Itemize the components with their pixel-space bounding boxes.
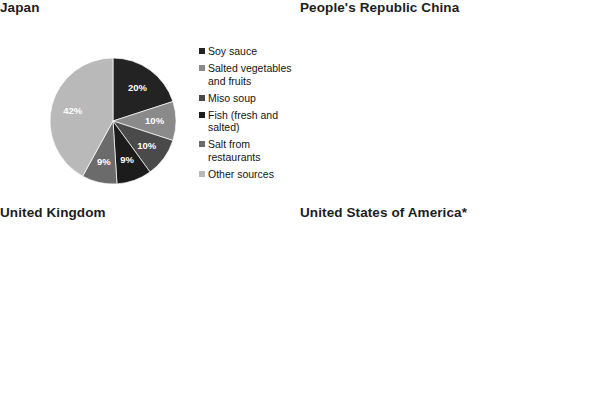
chart-panel-japan: Japan 20%10%10%9%9%42% Soy sauceSalted v… bbox=[0, 0, 300, 205]
chart-title-japan: Japan bbox=[0, 0, 300, 15]
chart-panel-usa: United States of America* 29%19%12%8%7%5… bbox=[300, 205, 601, 417]
chart-panel-china: People's Republic China 76%6%18% Salt ad… bbox=[300, 0, 601, 205]
legend-japan: Soy sauceSalted vegetables and fruitsMis… bbox=[199, 45, 297, 185]
legend-item: Fish (fresh and salted) bbox=[199, 109, 297, 134]
legend-swatch-icon bbox=[199, 112, 205, 118]
legend-label: Salted vegetables and fruits bbox=[208, 62, 291, 87]
pie-slice-label: 10% bbox=[137, 140, 157, 151]
legend-label: Miso soup bbox=[208, 92, 256, 105]
legend-label: Fish (fresh and salted) bbox=[208, 109, 278, 134]
legend-swatch-icon bbox=[199, 141, 205, 147]
pie-slice-label: 20% bbox=[128, 82, 148, 93]
legend-swatch-icon bbox=[199, 171, 205, 177]
pie-svg-japan: 20%10%10%9%9%42% bbox=[49, 57, 177, 185]
chart-panel-uk: United Kingdom 35%20%8%8%5%5%19% Grain p… bbox=[0, 205, 300, 417]
legend-item: Soy sauce bbox=[199, 45, 297, 58]
pie-slice-label: 10% bbox=[145, 115, 165, 126]
legend-label: Soy sauce bbox=[208, 45, 257, 58]
legend-item: Salt from restaurants bbox=[199, 138, 297, 163]
pie-slice-label: 42% bbox=[63, 105, 83, 116]
legend-label: Salt from restaurants bbox=[208, 138, 261, 163]
legend-swatch-icon bbox=[199, 65, 205, 71]
pie-chart-japan: 20%10%10%9%9%42% bbox=[49, 57, 177, 185]
pie-slice-label: 9% bbox=[97, 156, 111, 167]
legend-item: Miso soup bbox=[199, 92, 297, 105]
legend-item: Other sources bbox=[199, 168, 297, 181]
legend-swatch-icon bbox=[199, 48, 205, 54]
legend-swatch-icon bbox=[199, 95, 205, 101]
chart-title-uk: United Kingdom bbox=[0, 205, 300, 220]
chart-title-china: People's Republic China bbox=[300, 0, 601, 15]
legend-label: Other sources bbox=[208, 168, 274, 181]
pie-slice-label: 9% bbox=[120, 154, 134, 165]
chart-title-usa: United States of America* bbox=[300, 205, 601, 220]
legend-item: Salted vegetables and fruits bbox=[199, 62, 297, 87]
